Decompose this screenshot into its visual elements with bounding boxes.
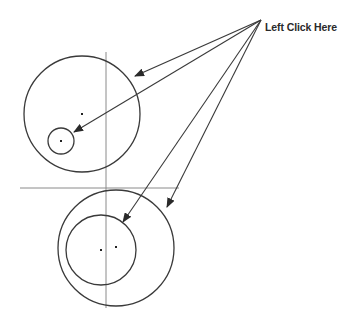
construction-lines — [20, 52, 179, 308]
lower-outer-center-point — [115, 246, 117, 248]
lower-inner-center-point — [100, 249, 102, 251]
left-click-here-label: Left Click Here — [265, 21, 337, 33]
upper-small-center-point — [60, 140, 62, 142]
circle-selection-diagram — [0, 0, 341, 327]
center-points — [60, 113, 117, 251]
upper-large-center-point — [81, 113, 83, 115]
